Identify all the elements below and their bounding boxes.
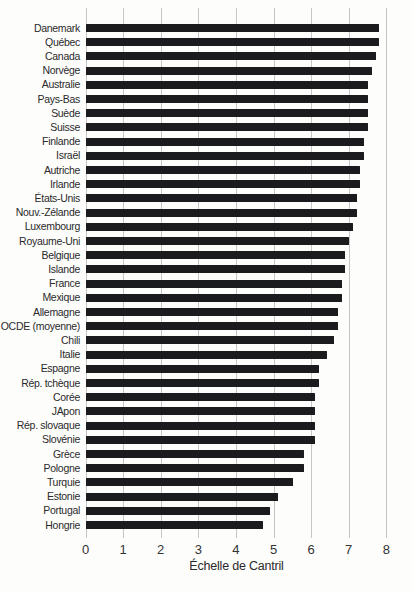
x-tick-label: 3 — [183, 542, 213, 557]
category-label: Rép. slovaque — [0, 419, 80, 431]
bar — [86, 67, 372, 75]
x-tick-label: 0 — [71, 542, 101, 557]
x-tick-label: 1 — [108, 542, 138, 557]
bar — [86, 308, 338, 316]
category-label: Grèce — [0, 448, 80, 460]
bar — [86, 294, 342, 302]
x-axis-title: Échelle de Cantril — [86, 559, 387, 573]
bar — [86, 507, 270, 515]
bar — [86, 478, 293, 486]
category-label: Italie — [0, 348, 80, 360]
category-label: Espagne — [0, 362, 80, 374]
bar — [86, 251, 345, 259]
category-label: Nouv.-Zélande — [0, 206, 80, 218]
bar — [86, 407, 315, 415]
gridline — [386, 8, 387, 538]
category-label: Islande — [0, 263, 80, 275]
bar — [86, 351, 327, 359]
category-label: Pays-Bas — [0, 93, 80, 105]
category-label: Chili — [0, 334, 80, 346]
bar — [86, 109, 368, 117]
bar — [86, 223, 353, 231]
bar — [86, 493, 278, 501]
category-label: Autriche — [0, 164, 80, 176]
category-label: Irlande — [0, 178, 80, 190]
category-label: Slovénie — [0, 433, 80, 445]
category-label: Mexique — [0, 291, 80, 303]
category-label: Estonie — [0, 490, 80, 502]
bar — [86, 152, 364, 160]
bar — [86, 379, 319, 387]
category-label: Portugal — [0, 504, 80, 516]
x-tick-label: 4 — [221, 542, 251, 557]
bar — [86, 280, 342, 288]
bar — [86, 38, 379, 46]
category-label: Corée — [0, 391, 80, 403]
category-label: JApon — [0, 405, 80, 417]
category-label: Allemagne — [0, 306, 80, 318]
bar — [86, 436, 315, 444]
category-label: Belgique — [0, 249, 80, 261]
bar — [86, 194, 357, 202]
bar — [86, 81, 368, 89]
bar — [86, 521, 263, 529]
category-label: Turquie — [0, 476, 80, 488]
category-label: Australie — [0, 78, 80, 90]
bar — [86, 138, 364, 146]
category-label: Pologne — [0, 462, 80, 474]
x-tick-label: 6 — [296, 542, 326, 557]
cantril-scale-bar-chart: 012345678DanemarkQuébecCanadaNorvègeAust… — [0, 0, 412, 592]
category-label: Danemark — [0, 22, 80, 34]
category-label: Norvège — [0, 64, 80, 76]
bar — [86, 393, 315, 401]
bar — [86, 166, 360, 174]
bar — [86, 450, 304, 458]
category-label: Québec — [0, 36, 80, 48]
bar — [86, 464, 304, 472]
bar — [86, 365, 319, 373]
bar — [86, 322, 338, 330]
bar — [86, 422, 315, 430]
x-tick-label: 7 — [334, 542, 364, 557]
category-label: Canada — [0, 50, 80, 62]
category-label: Suisse — [0, 121, 80, 133]
category-label: Royaume-Uni — [0, 235, 80, 247]
category-label: Rép. tchèque — [0, 377, 80, 389]
bar — [86, 336, 334, 344]
x-tick-label: 2 — [146, 542, 176, 557]
bar — [86, 180, 360, 188]
bar — [86, 237, 349, 245]
category-label: Suède — [0, 107, 80, 119]
bar — [86, 52, 376, 60]
category-label: Hongrie — [0, 519, 80, 531]
category-label: Israël — [0, 149, 80, 161]
category-label: France — [0, 277, 80, 289]
x-tick-label: 5 — [259, 542, 289, 557]
bar — [86, 123, 368, 131]
bar — [86, 265, 345, 273]
category-label: OCDE (moyenne) — [0, 320, 80, 332]
category-label: Finlande — [0, 135, 80, 147]
category-label: Luxembourg — [0, 220, 80, 232]
bar — [86, 209, 357, 217]
x-tick-label: 8 — [371, 542, 401, 557]
category-label: États-Unis — [0, 192, 80, 204]
bar — [86, 24, 379, 32]
bar — [86, 95, 368, 103]
